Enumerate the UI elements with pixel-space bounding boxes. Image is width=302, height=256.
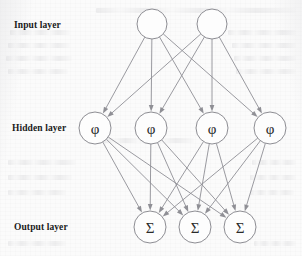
node-glyph: φ xyxy=(91,121,100,137)
edges-hidden-to-output xyxy=(103,137,266,218)
connection-edge xyxy=(208,141,260,210)
edge-arrowhead xyxy=(205,207,211,214)
edge-arrowhead xyxy=(197,204,202,211)
node-output: Σ xyxy=(224,211,256,243)
connection-edge xyxy=(216,143,234,206)
edge-arrowhead xyxy=(103,107,108,114)
edge-arrowhead xyxy=(220,212,227,218)
edge-arrowhead xyxy=(159,206,164,213)
node-circle xyxy=(197,9,227,39)
connection-edge xyxy=(106,139,179,212)
connection-edge xyxy=(219,37,259,109)
edge-arrowhead xyxy=(159,107,164,114)
node-input xyxy=(197,9,227,39)
node-input xyxy=(137,9,167,39)
nodes-group: φφφφΣΣΣ xyxy=(79,9,286,243)
edge-arrowhead xyxy=(149,105,154,112)
connection-edge xyxy=(105,37,144,109)
node-hidden: φ xyxy=(254,112,286,144)
node-glyph: Σ xyxy=(236,220,245,236)
edge-arrowhead xyxy=(137,206,142,213)
connection-edge xyxy=(103,142,140,208)
edge-arrowhead xyxy=(183,205,188,212)
hidden-layer-label: Hidden layer xyxy=(12,123,66,133)
node-hidden: φ xyxy=(135,112,167,144)
node-output: Σ xyxy=(179,211,211,243)
edge-arrowhead xyxy=(257,107,262,114)
input-layer-label: Input layer xyxy=(14,20,61,30)
connection-edge xyxy=(167,138,258,213)
output-layer-label: Output layer xyxy=(14,222,68,232)
node-glyph: Σ xyxy=(146,220,155,236)
node-glyph: φ xyxy=(266,121,275,137)
connection-edge xyxy=(158,143,187,208)
connection-edge xyxy=(150,144,151,206)
node-glyph: φ xyxy=(208,121,217,137)
node-hidden: φ xyxy=(196,112,228,144)
edges-input-to-hidden xyxy=(103,34,262,117)
connection-edge xyxy=(160,37,202,109)
connection-edge xyxy=(246,143,265,206)
node-glyph: Σ xyxy=(191,220,200,236)
connection-edge xyxy=(162,140,226,211)
node-hidden: φ xyxy=(79,112,111,144)
edge-arrowhead xyxy=(244,204,249,211)
neural-network-diagram: φφφφΣΣΣ Input layer Hidden layer Output … xyxy=(0,0,302,256)
edge-arrowhead xyxy=(210,105,215,112)
node-glyph: φ xyxy=(147,121,156,137)
node-output: Σ xyxy=(134,211,166,243)
edge-arrowhead xyxy=(231,204,236,211)
edge-arrowhead xyxy=(148,204,153,211)
edge-arrowhead xyxy=(198,107,203,114)
node-circle xyxy=(137,9,167,39)
connection-edge xyxy=(151,39,152,107)
connection-edge xyxy=(199,144,210,206)
connection-edge xyxy=(162,37,205,110)
